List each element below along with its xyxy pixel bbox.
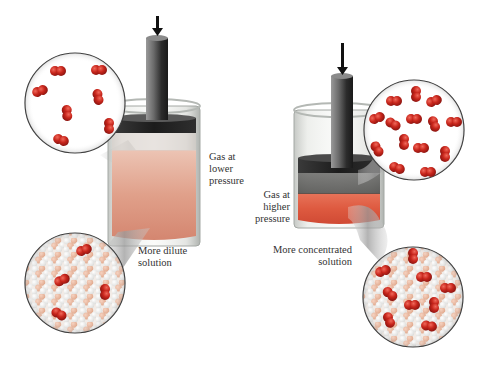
- left-gas-label: Gas at lower pressure: [209, 151, 244, 187]
- left-down-arrow-icon: [152, 16, 163, 36]
- gas-solubility-diagram: Gas at lower pressure More dilute soluti…: [0, 0, 494, 375]
- right-gas-label: Gas at higher pressure: [250, 189, 290, 225]
- left-piston-rod: [146, 38, 168, 120]
- right-gas-zoom-bubble: [364, 80, 464, 180]
- left-dilute-solution: [112, 150, 196, 240]
- left-gas-zoom-bubble: [25, 53, 125, 153]
- left-solution-zoom-bubble: [25, 233, 125, 333]
- right-piston-rod: [331, 76, 353, 168]
- diagram-canvas: [0, 0, 494, 375]
- left-solution-label: More dilute solution: [138, 245, 187, 269]
- right-solution-label: More concentrated solution: [262, 244, 352, 268]
- right-solution-zoom-bubble: [363, 247, 463, 347]
- right-down-arrow-icon: [337, 43, 348, 75]
